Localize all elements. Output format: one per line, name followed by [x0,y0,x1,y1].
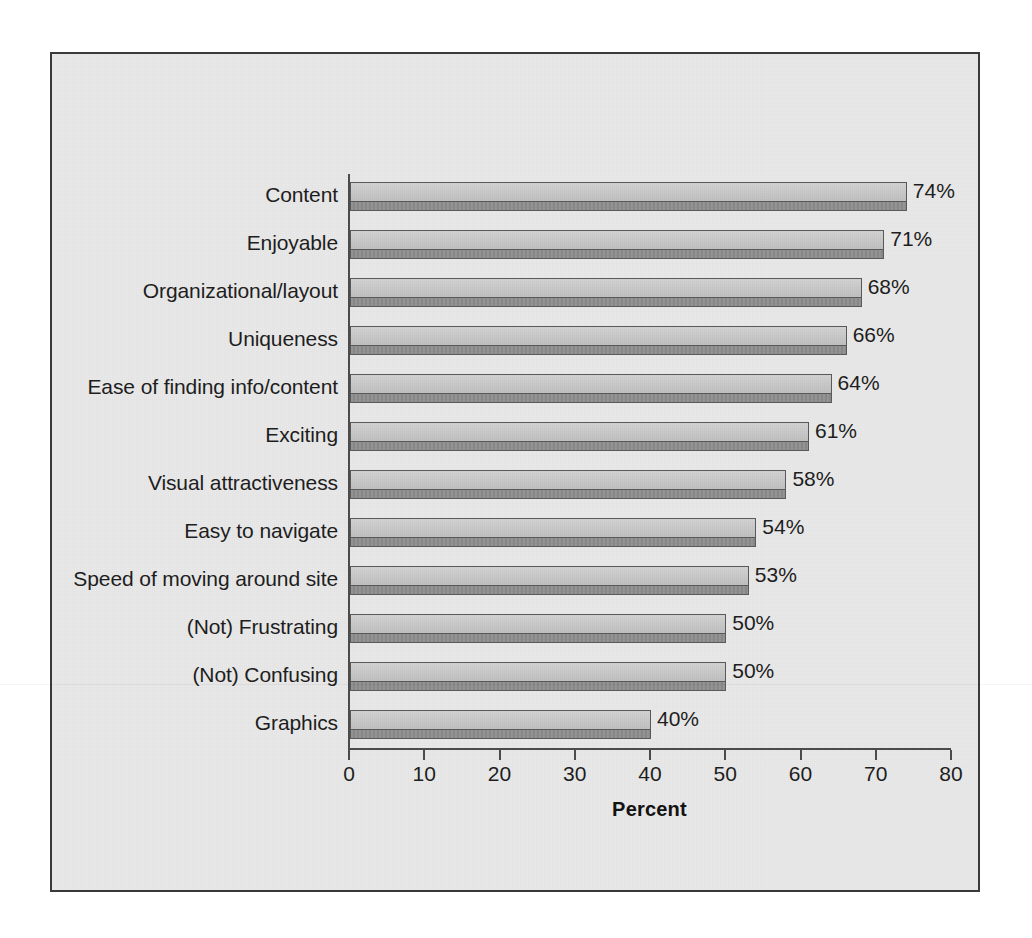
bar-value-label: 66% [847,324,895,346]
bar-row: Speed of moving around site53% [52,564,978,612]
category-label: Easy to navigate [52,516,338,546]
category-label: (Not) Confusing [52,660,338,690]
category-label: Content [52,180,338,210]
bar-value-label: 74% [907,180,955,202]
category-label: Organizational/layout [52,276,338,306]
bar [350,470,786,500]
x-axis-tick-label: 70 [846,762,906,786]
bar-value-label: 58% [786,468,834,490]
x-axis-tick-label: 30 [545,762,605,786]
bar-row: (Not) Frustrating50% [52,612,978,660]
bar [350,662,726,692]
bar-value-label: 64% [832,372,880,394]
bar [350,518,756,548]
bar [350,278,862,308]
bar-row: Enjoyable71% [52,228,978,276]
bar-face [350,422,809,442]
bar-face [350,566,749,586]
x-axis-tick-label: 80 [921,762,981,786]
bar-depth-face [350,490,786,499]
x-axis-tick [348,750,350,760]
bar [350,614,726,644]
x-axis-tick-label: 10 [394,762,454,786]
bar-face [350,614,726,634]
x-axis-tick [724,750,726,760]
category-label: (Not) Frustrating [52,612,338,642]
bar-depth-face [350,538,756,547]
bar-face [350,662,726,682]
bar-row: Exciting61% [52,420,978,468]
bar-depth-face [350,346,847,355]
chart-frame: Content74%Enjoyable71%Organizational/lay… [50,52,980,892]
bar-face [350,470,786,490]
x-axis-tick [649,750,651,760]
bar-depth-face [350,202,907,211]
bar-row: Uniqueness66% [52,324,978,372]
plot-area: Content74%Enjoyable71%Organizational/lay… [52,54,978,890]
bar-value-label: 68% [862,276,910,298]
bar [350,230,884,260]
bar-depth-face [350,682,726,691]
bar-value-label: 71% [884,228,932,250]
bar-face [350,278,862,298]
figure-root: Content74%Enjoyable71%Organizational/lay… [0,0,1032,938]
x-axis-tick [875,750,877,760]
x-axis-tick-label: 40 [620,762,680,786]
bar-value-label: 40% [651,708,699,730]
x-axis-tick [499,750,501,760]
bar-face [350,518,756,538]
x-axis-title: Percent [348,798,951,821]
bar-depth-face [350,442,809,451]
bar [350,182,907,212]
bar [350,710,651,740]
bar-depth-face [350,634,726,643]
bar-row: Organizational/layout68% [52,276,978,324]
bar-face [350,182,907,202]
x-axis-tick-label: 50 [695,762,755,786]
bar-face [350,230,884,250]
bar-depth-face [350,394,832,403]
bar-row: (Not) Confusing50% [52,660,978,708]
bar [350,326,847,356]
bar-depth-face [350,250,884,259]
category-label: Uniqueness [52,324,338,354]
x-axis-tick-label: 0 [319,762,379,786]
bar-face [350,374,832,394]
category-label: Graphics [52,708,338,738]
bar-face [350,326,847,346]
bar-value-label: 61% [809,420,857,442]
bar [350,566,749,596]
bar-depth-face [350,298,862,307]
x-axis-tick [950,750,952,760]
category-label: Exciting [52,420,338,450]
category-label: Visual attractiveness [52,468,338,498]
bar-depth-face [350,730,651,739]
bar [350,422,809,452]
bar-row: Easy to navigate54% [52,516,978,564]
bar-value-label: 50% [726,612,774,634]
bar-value-label: 54% [756,516,804,538]
category-label: Ease of finding info/content [52,372,338,402]
bar-face [350,710,651,730]
x-axis-tick-label: 60 [771,762,831,786]
bar-depth-face [350,586,749,595]
bar-row: Ease of finding info/content64% [52,372,978,420]
x-axis-tick [800,750,802,760]
x-axis-tick-label: 20 [470,762,530,786]
x-axis-tick [423,750,425,760]
category-label: Speed of moving around site [52,564,338,594]
category-label: Enjoyable [52,228,338,258]
bar-row: Graphics40% [52,708,978,756]
bar-value-label: 53% [749,564,797,586]
x-axis-tick [574,750,576,760]
bar-value-label: 50% [726,660,774,682]
bar [350,374,832,404]
bar-row: Visual attractiveness58% [52,468,978,516]
bar-row: Content74% [52,180,978,228]
